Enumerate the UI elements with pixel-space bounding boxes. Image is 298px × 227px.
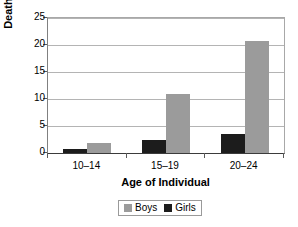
x-axis-tick-mark <box>204 153 205 158</box>
chart-legend: BoysGirls <box>118 200 202 216</box>
y-axis-tick-label: 20 <box>23 39 45 49</box>
bar-girls-0 <box>63 149 87 153</box>
x-axis-tick-mark <box>47 153 48 158</box>
bar-boys-1 <box>166 94 190 153</box>
legend-label: Boys <box>135 203 157 213</box>
legend-label: Girls <box>175 203 196 213</box>
legend-swatch-girls <box>164 204 172 212</box>
x-axis-tick-mark <box>283 153 284 158</box>
plot-area <box>47 17 285 154</box>
legend-entry-girls: Girls <box>164 203 196 213</box>
y-axis-tick-label: 15 <box>23 66 45 76</box>
x-axis-category-label: 15–19 <box>135 160 195 171</box>
gridline <box>48 18 284 19</box>
y-axis-title: Deaths per 100,000 <box>1 0 15 47</box>
bar-girls-2 <box>221 134 245 153</box>
y-axis-tick-label: 25 <box>23 12 45 22</box>
y-axis-tick-label: 5 <box>23 120 45 130</box>
legend-entry-boys: Boys <box>124 203 157 213</box>
x-axis-category-label: 20–24 <box>214 160 274 171</box>
x-axis-category-label: 10–14 <box>56 160 116 171</box>
y-axis-tick-label: 10 <box>23 93 45 103</box>
x-axis-title: Age of Individual <box>47 176 284 189</box>
legend-swatch-boys <box>124 204 132 212</box>
x-axis-tick-mark <box>126 153 127 158</box>
y-axis-tick-label: 0 <box>23 147 45 157</box>
bar-chart: Deaths per 100,000 0510152025 10–1415–19… <box>0 0 298 227</box>
bar-boys-0 <box>87 143 111 153</box>
bar-girls-1 <box>142 140 166 153</box>
y-axis-title-container: Deaths per 100,000 <box>1 16 15 153</box>
bar-boys-2 <box>245 41 269 153</box>
